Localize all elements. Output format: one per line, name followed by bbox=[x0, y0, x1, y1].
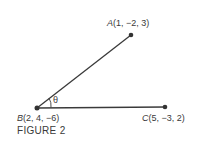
angle-arc bbox=[49, 98, 51, 108]
segment-bc bbox=[37, 107, 165, 108]
point-a-label: A(1, −2, 3) bbox=[107, 18, 149, 28]
point-c bbox=[163, 105, 168, 110]
segment-ba bbox=[37, 35, 131, 108]
angle-theta-label: θ bbox=[53, 95, 58, 105]
point-c-label: C(5, −3, 2) bbox=[142, 113, 185, 123]
point-b-label: B(2, 4, −6) bbox=[17, 113, 59, 123]
point-b bbox=[35, 106, 40, 111]
point-a-coords: (1, −2, 3) bbox=[113, 18, 149, 28]
point-c-coords: (5, −3, 2) bbox=[149, 113, 185, 123]
point-b-coords: (2, 4, −6) bbox=[23, 113, 59, 123]
point-a bbox=[129, 33, 134, 38]
figure-caption: FIGURE 2 bbox=[17, 125, 66, 136]
